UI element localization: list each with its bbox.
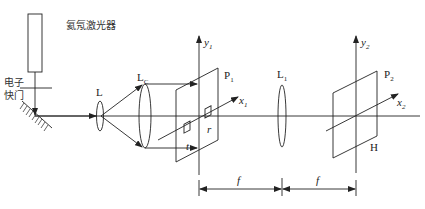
- diverging-beam-bottom: [101, 116, 142, 147]
- axis-y2-label: y2: [360, 36, 370, 51]
- axis-x1-label: x1: [238, 94, 247, 109]
- lens-Lc: LC: [137, 71, 151, 148]
- object-r-label: r: [207, 123, 212, 135]
- electronic-shutter: 电子 快门: [4, 76, 52, 101]
- filter-H-label: H: [370, 141, 378, 153]
- object-t-label: t: [186, 140, 190, 152]
- shutter-label-line1: 电子: [4, 76, 24, 88]
- laser-label: 氦氖激光器: [66, 19, 116, 31]
- axis-x2: [326, 94, 398, 131]
- focal-dimensions: f f: [199, 174, 356, 196]
- diverging-beam-top: [101, 85, 142, 116]
- lens-L1: L1: [277, 68, 288, 147]
- axis-x1: [158, 97, 238, 140]
- lens-L: L: [96, 86, 104, 131]
- plane-P2: y2 P2 x2 H: [326, 36, 406, 173]
- axis-y1-label: y1: [203, 36, 212, 51]
- laser-source: 氦氖激光器: [28, 14, 116, 72]
- focal-length-1: f: [237, 174, 242, 186]
- lens-L1-label: L1: [277, 68, 288, 83]
- plane-P2-label: P2: [384, 68, 394, 83]
- plane-P1: t r y1 P1 x1: [158, 36, 247, 175]
- focal-length-2: f: [316, 174, 321, 186]
- optical-diagram: 氦氖激光器 电子 快门 L LC: [0, 0, 425, 209]
- lens-L-label: L: [96, 86, 103, 98]
- shutter-label-line2: 快门: [4, 89, 24, 101]
- axis-x2-label: x2: [396, 96, 406, 111]
- plane-P1-label: P1: [224, 69, 234, 84]
